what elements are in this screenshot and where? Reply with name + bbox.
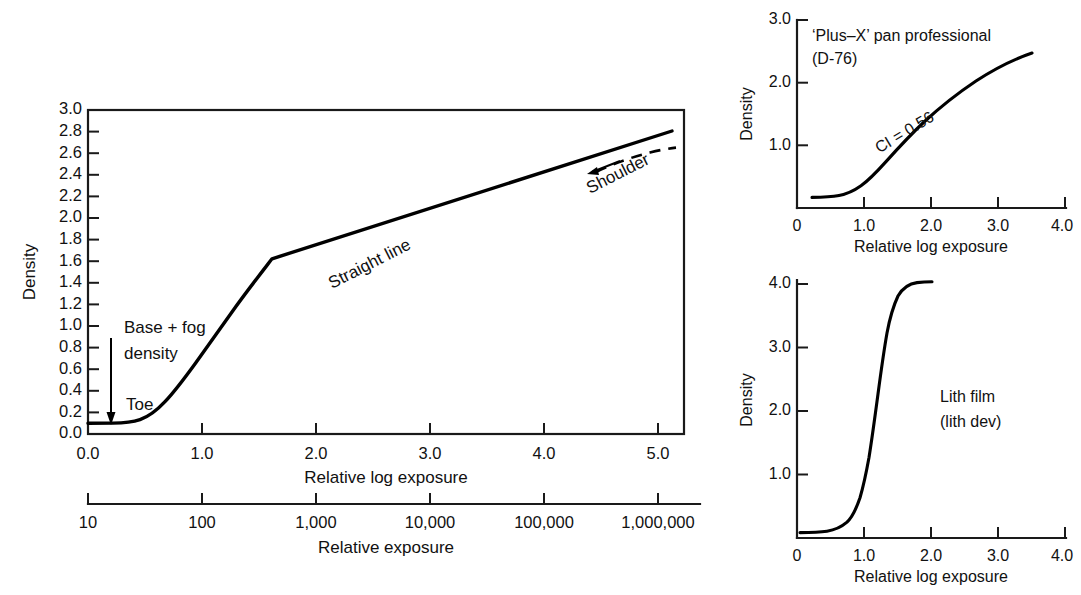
main-y-tick-label: 0.2	[59, 402, 82, 420]
topright-x-tick-label: 0	[793, 217, 802, 234]
bottomright-title-line2: (lith dev)	[940, 413, 1001, 430]
secondary-x-axis-title: Relative exposure	[318, 538, 454, 557]
bottomright-title-line1: Lith film	[940, 388, 995, 405]
bottom-right-chart: 4.0 3.0 2.0 1.0 Density 0 1.0 2.0 3.0 4.…	[738, 274, 1073, 585]
topright-x-tick-label: 2.0	[920, 217, 942, 234]
top-right-chart: 3.0 2.0 1.0 Density 0 1.0 2.0 3.0 4.0 Re…	[738, 10, 1073, 255]
topright-y-tick-label: 2.0	[769, 73, 791, 90]
main-y-ticks	[88, 110, 99, 434]
main-x-axis-title: Relative log exposure	[304, 468, 467, 487]
main-y-tick-label: 2.6	[59, 143, 82, 161]
topright-y-tick-label: 1.0	[769, 136, 791, 153]
main-x-tick-label: 0.0	[77, 444, 100, 462]
main-y-tick-label: 1.6	[59, 251, 82, 269]
main-y-tick-label: 1.4	[59, 272, 82, 290]
main-y-tick-label: 2.2	[59, 186, 82, 204]
topright-x-tick-label: 3.0	[987, 217, 1009, 234]
bottomright-x-axis-title: Relative log exposure	[854, 568, 1008, 585]
topright-y-tick-label: 3.0	[769, 10, 791, 27]
topright-x-tick-label: 4.0	[1051, 217, 1073, 234]
main-y-tick-label: 1.0	[59, 315, 82, 333]
topright-x-axis-title: Relative log exposure	[854, 238, 1008, 255]
main-y-tick-label: 1.8	[59, 229, 82, 247]
bottomright-x-tick-label: 4.0	[1051, 547, 1073, 564]
bottomright-y-tick-label: 3.0	[769, 338, 791, 355]
main-y-tick-label: 1.2	[59, 294, 82, 312]
bottomright-curve	[800, 282, 932, 533]
main-x-tick-label: 3.0	[419, 444, 442, 462]
secondary-x-tick-label: 1,000,000	[621, 513, 694, 531]
topright-y-ticks	[797, 20, 808, 145]
main-y-axis-title: Density	[20, 243, 39, 300]
main-y-tick-label: 0.0	[59, 423, 82, 441]
main-curve	[88, 131, 672, 423]
toe-label: Toe	[126, 395, 153, 414]
main-y-tick-label: 2.0	[59, 207, 82, 225]
main-y-tick-label: 0.8	[59, 337, 82, 355]
secondary-x-tick-label: 100	[188, 513, 216, 531]
secondary-x-tick-label: 100,000	[514, 513, 574, 531]
bottomright-y-ticks	[797, 284, 808, 475]
main-y-tick-label: 2.8	[59, 121, 82, 139]
main-x-tick-label: 4.0	[533, 444, 556, 462]
straight-line-label: Straight line	[325, 235, 414, 293]
main-y-tick-label: 3.0	[59, 99, 82, 117]
main-y-tick-label: 0.6	[59, 359, 82, 377]
topright-ci-label: CI = 0.56	[872, 108, 937, 156]
main-chart: 0.0 0.2 0.4 0.6 0.8 1.0 1.2 1.4 1.6 1.8 …	[20, 99, 700, 557]
secondary-x-tick-label: 1,000	[295, 513, 336, 531]
secondary-exposure-axis	[88, 493, 700, 504]
bottomright-y-tick-label: 4.0	[769, 274, 791, 291]
base-fog-label-line2: density	[124, 344, 178, 363]
topright-x-ticks	[797, 197, 1065, 208]
topright-title-line2: (D-76)	[812, 50, 857, 67]
bottomright-x-tick-label: 3.0	[987, 547, 1009, 564]
bottomright-y-axis-title: Density	[738, 373, 755, 426]
sensitometry-figure: 0.0 0.2 0.4 0.6 0.8 1.0 1.2 1.4 1.6 1.8 …	[0, 0, 1081, 595]
bottomright-x-tick-label: 1.0	[853, 547, 875, 564]
topright-title-line1: ‘Plus–X’ pan professional	[812, 27, 991, 44]
main-x-ticks	[88, 423, 658, 434]
bottomright-y-tick-label: 1.0	[769, 465, 791, 482]
main-x-tick-label: 1.0	[191, 444, 214, 462]
bottomright-y-tick-label: 2.0	[769, 401, 791, 418]
main-x-tick-label: 5.0	[647, 444, 670, 462]
bottomright-x-tick-label: 2.0	[920, 547, 942, 564]
base-fog-label-line1: Base + fog	[124, 318, 206, 337]
figure-root: 0.0 0.2 0.4 0.6 0.8 1.0 1.2 1.4 1.6 1.8 …	[0, 0, 1081, 595]
bottomright-x-tick-label: 0	[793, 547, 802, 564]
main-y-tick-label: 2.4	[59, 164, 82, 182]
main-x-tick-label: 2.0	[305, 444, 328, 462]
base-fog-arrow	[107, 338, 116, 425]
secondary-x-tick-label: 10	[79, 513, 97, 531]
topright-x-tick-label: 1.0	[853, 217, 875, 234]
main-y-tick-label: 0.4	[59, 380, 82, 398]
secondary-x-tick-label: 10,000	[405, 513, 455, 531]
topright-y-axis-title: Density	[738, 87, 755, 140]
